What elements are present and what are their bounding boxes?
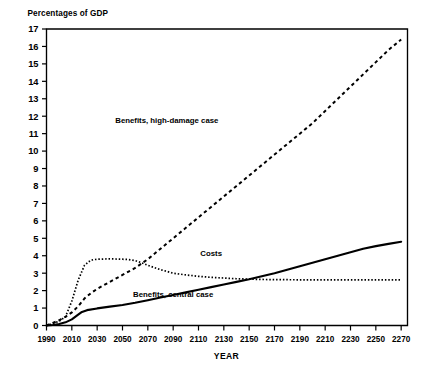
x-tick-label: 2170	[265, 335, 284, 344]
plot-frame	[47, 29, 408, 326]
series-line-benefits-high-damage-case	[47, 39, 402, 325]
x-tick-label: 2090	[164, 335, 183, 344]
y-tick-label: 10	[28, 146, 38, 156]
y-tick-label: 12	[28, 112, 38, 122]
x-tick-label: 2210	[316, 335, 335, 344]
x-tick-label: 2130	[215, 335, 234, 344]
series-annotation-costs: Costs	[200, 249, 222, 258]
series-line-benefits-central-case	[47, 242, 402, 326]
y-tick-label: 4	[33, 251, 39, 261]
x-tick-label: 2030	[88, 335, 107, 344]
y-tick-label: 7	[33, 199, 38, 209]
y-axis-title: Percentages of GDP	[28, 9, 109, 18]
y-tick-label: 3	[33, 269, 38, 279]
y-tick-label: 0	[33, 321, 38, 331]
x-tick-label: 2110	[190, 335, 208, 344]
y-tick-label: 8	[33, 181, 38, 191]
x-tick-label: 2050	[113, 335, 132, 344]
x-tick-label: 1990	[37, 335, 56, 344]
y-tick-label: 16	[28, 42, 38, 52]
y-tick-label: 1	[33, 303, 38, 313]
series-line-costs	[47, 259, 402, 326]
y-tick-label: 17	[28, 24, 38, 34]
y-tick-label: 9	[33, 164, 38, 174]
x-tick-label: 2190	[291, 335, 310, 344]
x-tick-label: 2010	[63, 335, 82, 344]
y-tick-label: 11	[29, 129, 39, 139]
x-tick-label: 2250	[367, 335, 386, 344]
y-tick-label: 14	[28, 77, 39, 87]
y-tick-label: 13	[28, 94, 38, 104]
x-tick-label: 2070	[139, 335, 158, 344]
chart-figure: 0123456789101112131415161719902010203020…	[0, 0, 431, 374]
y-tick-label: 6	[33, 216, 38, 226]
x-axis-title: YEAR	[214, 351, 240, 361]
y-tick-label: 15	[28, 59, 38, 69]
x-tick-label: 2230	[341, 335, 360, 344]
series-annotation-benefits-high-damage-case: Benefits, high-damage case	[115, 116, 219, 125]
y-tick-label: 2	[33, 286, 38, 296]
chart-svg: 0123456789101112131415161719902010203020…	[0, 0, 431, 374]
series-annotation-benefits-central-case: Benefits, central case	[133, 290, 214, 299]
y-tick-label: 5	[33, 234, 38, 244]
x-tick-label: 2150	[240, 335, 259, 344]
x-tick-label: 2270	[392, 335, 411, 344]
